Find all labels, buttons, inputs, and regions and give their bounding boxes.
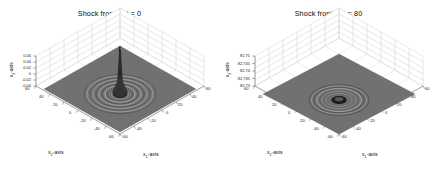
z-axis-label-suffix: -axis <box>8 62 14 73</box>
y-axis-label-right: x2-axis <box>267 150 283 158</box>
x-tick-label: 60 <box>425 87 429 91</box>
y-tick-label: -20 <box>299 119 305 123</box>
x-tick-label: 20 <box>397 103 401 107</box>
y-tick-label: 60 <box>25 87 29 91</box>
y-tick-label: 20 <box>53 103 57 107</box>
axes3d-right-svg <box>249 24 429 154</box>
x-tick-label: -60 <box>122 135 128 139</box>
y-tick-label: 20 <box>272 103 276 107</box>
y-tick-label: -60 <box>327 135 333 139</box>
z-axis-label-suffix: -axis <box>224 62 230 73</box>
z-axis-label-right: x3-axis <box>225 54 233 86</box>
y-tick-label: -60 <box>108 135 114 139</box>
z-tickmarks <box>33 56 36 86</box>
x-axis-label-suffix: -axis <box>148 151 159 157</box>
x-tick-label: -20 <box>150 119 156 123</box>
x-tick-label: 0 <box>385 111 387 115</box>
x-tick-label: -60 <box>341 135 347 139</box>
z-tickmarks <box>252 56 255 86</box>
y-axis-label-suffix: -axis <box>272 149 283 155</box>
z-axis-label-sub: 3 <box>228 73 232 75</box>
x-tick-label: -20 <box>369 119 375 123</box>
x-tick-label: 40 <box>411 95 415 99</box>
axes3d-left-svg <box>30 24 210 154</box>
x-tick-label: -40 <box>136 127 142 131</box>
y-axis-label-left: x2-axis <box>48 150 64 158</box>
axes3d-right: 82.75 82.745 82.74 82.735 82.73 60 40 20… <box>249 24 429 154</box>
y-tick-label: -40 <box>94 127 100 131</box>
y-axis-label-suffix: -axis <box>53 149 64 155</box>
y-tick-label: 0 <box>288 111 290 115</box>
z-axis-label-text: x <box>224 75 230 78</box>
x-axis-label-right: x1-axis <box>362 152 378 160</box>
y-tick-label: -20 <box>80 119 86 123</box>
y-tick-label: 40 <box>258 95 262 99</box>
x-tick-label: -40 <box>355 127 361 131</box>
figure-canvas: Shock front at t = 0 <box>0 0 438 173</box>
z-axis-label-sub: 3 <box>12 73 16 75</box>
axes3d-left: 0.06 0.04 0.02 0 -0.02 -0.04 60 40 20 0 … <box>30 24 210 154</box>
y-tick-label: -40 <box>313 127 319 131</box>
plot-panel-left: Shock front at t = 0 <box>0 0 219 173</box>
z-axis-label-left: x3-axis <box>9 54 17 86</box>
z-axis-label-text: x <box>8 75 14 78</box>
x-tick-label: 60 <box>206 87 210 91</box>
x-tick-label: 40 <box>192 95 196 99</box>
x-tick-label: 20 <box>178 103 182 107</box>
plot-panel-right: Shock front at t = 80 <box>219 0 438 173</box>
x-axis-label-left: x1-axis <box>143 152 159 160</box>
y-tick-label: 60 <box>244 87 248 91</box>
y-tick-label: 0 <box>69 111 71 115</box>
y-tick-label: 40 <box>39 95 43 99</box>
x-tick-label: 0 <box>166 111 168 115</box>
x-axis-label-suffix: -axis <box>367 151 378 157</box>
